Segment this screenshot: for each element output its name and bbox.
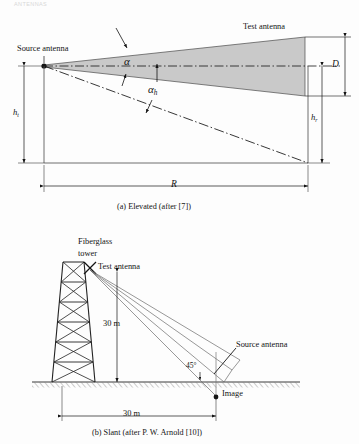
caption-figure-b: (b) Slant (after P. W. Arnold [10]): [92, 429, 202, 437]
label-angle-45: 45°: [186, 362, 197, 370]
tower-brace: [59, 282, 85, 302]
tower-brace: [58, 322, 92, 342]
label-source-antenna-a: Source antenna: [17, 45, 68, 53]
label-height-t-sub: t: [17, 112, 19, 118]
label-fiberglass-tower-line1: Fiberglass: [78, 238, 112, 246]
label-test-antenna-a: Test antenna: [243, 23, 285, 31]
label-fiberglass-tower-line2: tower: [78, 250, 97, 258]
tower-brace: [52, 362, 93, 382]
label-height-r-sub: r: [315, 117, 317, 123]
image-point: [214, 395, 219, 400]
label-range-R: R: [171, 180, 177, 190]
label-aperture-D: D: [332, 60, 339, 70]
label-alpha-h: αh: [148, 84, 157, 97]
beam-cone-shaded: [44, 37, 305, 96]
tower-brace: [61, 282, 87, 302]
source-aperture-line: [232, 360, 240, 370]
label-ground-distance: 30 m: [123, 410, 140, 418]
source-aperture-line: [224, 370, 232, 382]
tower-brace: [56, 342, 93, 362]
slant-ray-to-image: [90, 270, 216, 396]
label-image: Image: [222, 390, 243, 398]
cone-edge-leader-top: [116, 28, 127, 48]
figure-artwork: [0, 0, 359, 444]
tower-brace: [63, 262, 86, 282]
label-tower-height: 30 m: [103, 320, 120, 328]
tower-brace: [54, 362, 95, 382]
ground-hatching: [32, 383, 300, 388]
slant-ray: [90, 270, 240, 360]
tower-brace: [56, 322, 90, 342]
alpha-h-leader-down: [146, 100, 152, 113]
source-antenna-leader-b: [214, 348, 236, 374]
tower-brace: [58, 302, 88, 322]
tower-brace: [59, 302, 89, 322]
tower-brace: [61, 262, 84, 282]
caption-figure-a: (a) Elevated (after [7]): [117, 203, 191, 211]
label-height-r: hr: [311, 113, 318, 123]
label-alpha: α: [124, 56, 130, 67]
label-height-t: ht: [13, 108, 19, 118]
figure-page: ANTENNAS: [0, 0, 359, 444]
tower-brace: [54, 342, 91, 362]
label-source-antenna-b: Source antenna: [236, 341, 287, 349]
label-test-antenna-b: Test antenna: [98, 263, 140, 271]
label-alpha-h-sub: h: [154, 89, 158, 97]
